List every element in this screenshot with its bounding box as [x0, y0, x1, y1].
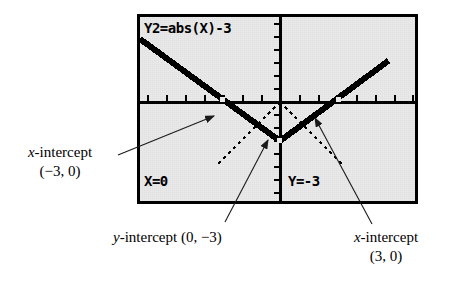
y-axis — [279, 17, 282, 201]
annotation-middle-variable: y — [113, 229, 120, 245]
annotation-right-label: -intercept — [361, 229, 418, 245]
cursor-mark-left-intercept — [220, 97, 225, 102]
curve-y2-abs-x-minus-3 — [140, 39, 389, 141]
annotation-left-label: -intercept — [35, 144, 92, 160]
annotation-y-intercept: y-intercept (0, −3) — [113, 228, 222, 247]
annotation-right-point: (3, 0) — [327, 247, 445, 266]
annotation-x-intercept-left: x-intercept (−3, 0) — [4, 143, 116, 181]
annotation-middle-label: -intercept (0, −3) — [120, 229, 222, 245]
annotation-left-point: (−3, 0) — [4, 162, 116, 181]
y-coordinate-readout: Y=-3 — [288, 174, 320, 188]
calculator-screen: Y2=abs(X)-3 X=0 Y=-3 — [137, 14, 418, 204]
annotation-x-intercept-right: x-intercept (3, 0) — [327, 228, 445, 266]
cursor-mark-vertex — [277, 138, 282, 143]
x-coordinate-readout: X=0 — [144, 174, 168, 188]
graph-plot — [140, 17, 415, 201]
annotation-right-variable: x — [354, 229, 361, 245]
equation-label: Y2=abs(X)-3 — [144, 21, 231, 35]
annotation-left-variable: x — [28, 144, 35, 160]
cursor-mark-right-intercept — [336, 97, 341, 102]
